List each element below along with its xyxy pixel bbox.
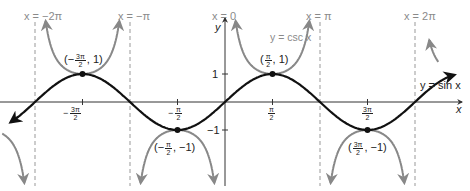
x-tick-neg-pi-2: − π2: [175, 106, 182, 121]
asymptote-label-pi: x = π: [306, 11, 332, 22]
plot-area: [0, 0, 470, 191]
axes: [0, 18, 462, 186]
y-tick-neg-1: −1: [207, 125, 220, 136]
y-axis-label: y: [215, 22, 221, 33]
key-point-dot: [175, 127, 181, 133]
csc-curve-label: y = csc x: [270, 32, 311, 43]
x-tick-3pi-2: 3π2: [362, 106, 373, 121]
key-point-dot: [270, 71, 276, 77]
asymptote-label-neg-2pi: x = −2π: [24, 11, 62, 22]
x-axis-label: x: [456, 104, 462, 115]
y-tick-1: 1: [212, 69, 218, 80]
x-tick-pi-2: π2: [268, 106, 275, 121]
asymptote-label-2pi: x = 2π: [404, 11, 436, 22]
key-point-dot: [365, 127, 371, 133]
point-label-neg-pi-2: (−π2, −1): [154, 141, 195, 156]
key-point-dot: [80, 71, 86, 77]
x-tick-neg-3pi-2: − 3π2: [70, 106, 81, 121]
asymptote-label-neg-pi: x = −π: [118, 11, 150, 22]
point-label-3pi-2: (3π2, −1): [348, 141, 387, 156]
sin-curve-label: y = sin x: [420, 80, 461, 91]
point-label-pi-2: (π2, 1): [260, 53, 288, 68]
point-label-neg-3pi-2: (−3π2, 1): [64, 53, 103, 68]
